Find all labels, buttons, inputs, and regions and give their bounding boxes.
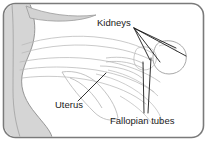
kidney-organ-right [153,41,186,74]
label-uterus: Uterus [55,99,83,110]
label-fallopian-tubes: Fallopian tubes [110,115,175,126]
anatomy-figure: Kidneys Uterus Fallopian tubes [0,0,207,141]
label-kidneys: Kidneys [97,17,131,28]
diagram-canvas: Kidneys Uterus Fallopian tubes [0,0,207,141]
